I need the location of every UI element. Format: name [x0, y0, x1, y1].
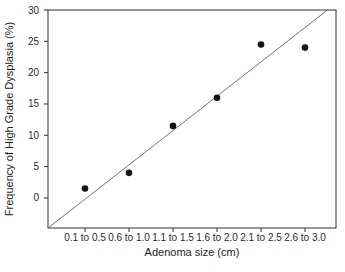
- y-axis-title: Frequency of High Grade Dysplasia (%): [3, 22, 15, 216]
- x-axis-tick-label: 2.1 to 2.5: [240, 232, 282, 243]
- x-axis-title: Adenoma size (cm): [145, 246, 240, 258]
- x-axis-tick-label: 2.6 to 3.0: [284, 232, 326, 243]
- y-axis-tick-label: 10: [28, 130, 40, 141]
- x-axis-tick-label: 1.1 to 1.5: [152, 232, 194, 243]
- chart: 0510152025300.1 to 0.50.6 to 1.01.1 to 1…: [0, 0, 345, 272]
- y-axis-tick-label: 30: [28, 5, 40, 16]
- data-point: [302, 44, 309, 51]
- y-axis-tick-label: 20: [28, 67, 40, 78]
- plot-border: [48, 10, 336, 228]
- y-axis-tick-label: 25: [28, 36, 40, 47]
- trend-line: [48, 10, 327, 228]
- data-point: [126, 170, 133, 177]
- plot-area: 0510152025300.1 to 0.50.6 to 1.01.1 to 1…: [28, 5, 336, 244]
- data-point: [82, 185, 89, 192]
- data-point: [258, 41, 265, 48]
- y-axis-tick-label: 5: [33, 161, 39, 172]
- y-axis-tick-label: 0: [33, 192, 39, 203]
- x-axis-tick-label: 0.1 to 0.5: [64, 232, 106, 243]
- data-point: [170, 123, 177, 130]
- x-axis-tick-label: 0.6 to 1.0: [108, 232, 150, 243]
- data-point: [214, 94, 221, 101]
- scatter-plot-svg: 0510152025300.1 to 0.50.6 to 1.01.1 to 1…: [0, 0, 345, 272]
- x-axis-tick-label: 1.6 to 2.0: [196, 232, 238, 243]
- y-axis-tick-label: 15: [28, 98, 40, 109]
